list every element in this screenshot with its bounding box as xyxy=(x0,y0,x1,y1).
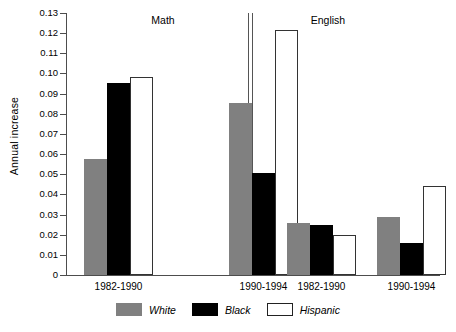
legend-item-black: Black xyxy=(192,303,251,316)
y-tick-label: 0.03 xyxy=(24,210,58,220)
y-tick-label: 0.10 xyxy=(24,68,58,78)
legend-item-hispanic: Hispanic xyxy=(267,303,340,316)
y-tick-label: 0.07 xyxy=(24,129,58,139)
y-tick-label: 0.09 xyxy=(24,89,58,99)
legend-swatch-white xyxy=(116,303,142,316)
y-tick-label: 0.06 xyxy=(24,149,58,159)
legend-label: White xyxy=(149,304,176,316)
x-category-label: 1990-1994 xyxy=(357,281,456,292)
bar-math-1990-1994-white xyxy=(229,103,252,275)
bar-english-1990-1994-black xyxy=(400,243,423,275)
y-tick-label: 0.05 xyxy=(24,169,58,179)
bar-math-1982-1990-hispanic xyxy=(130,77,153,275)
y-tick-label: 0.13 xyxy=(24,8,58,18)
bar-english-1990-1994-white xyxy=(377,217,400,275)
bar-english-1982-1990-white xyxy=(287,223,310,275)
y-axis-tick-labels: 0.130.120.110.100.090.080.070.060.050.04… xyxy=(18,0,58,332)
bars-layer xyxy=(66,13,440,275)
bar-math-1982-1990-white xyxy=(84,159,107,275)
bar-english-1982-1990-black xyxy=(310,225,333,275)
y-tick-label: 0.02 xyxy=(24,230,58,240)
x-category-label: 1982-1990 xyxy=(64,281,174,292)
y-tick-label: 0.08 xyxy=(24,109,58,119)
y-tick-label: 0 xyxy=(24,270,58,280)
legend-swatch-black xyxy=(192,303,218,316)
x-axis-line xyxy=(66,275,440,276)
legend-label: Black xyxy=(225,304,251,316)
y-tick-label: 0.04 xyxy=(24,189,58,199)
bar-math-1990-1994-black xyxy=(252,173,275,275)
bar-chart: Annual increase 0.130.120.110.100.090.08… xyxy=(0,0,456,332)
bar-math-1982-1990-black xyxy=(107,83,130,275)
legend: WhiteBlackHispanic xyxy=(0,303,456,316)
y-tick-label: 0.01 xyxy=(24,250,58,260)
bar-english-1990-1994-hispanic xyxy=(423,186,446,275)
legend-swatch-hispanic xyxy=(267,303,293,316)
legend-item-white: White xyxy=(116,303,176,316)
legend-label: Hispanic xyxy=(300,304,340,316)
bar-english-1982-1990-hispanic xyxy=(333,235,356,275)
y-tick-label: 0.12 xyxy=(24,28,58,38)
y-tick-label: 0.11 xyxy=(24,48,58,58)
